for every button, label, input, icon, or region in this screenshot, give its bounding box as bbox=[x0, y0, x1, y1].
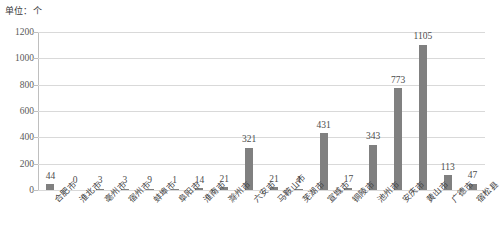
y-axis-tick-labels: 020040060080010001200 bbox=[0, 0, 38, 246]
bar-value-label: 431 bbox=[316, 121, 330, 131]
bar-group[interactable]: 47 bbox=[460, 32, 485, 190]
bar-group[interactable]: 21 bbox=[262, 32, 287, 190]
bar-group[interactable]: 1 bbox=[162, 32, 187, 190]
bar-group[interactable]: 113 bbox=[435, 32, 460, 190]
bar-value-label: 773 bbox=[391, 76, 405, 86]
bar-value-label: 44 bbox=[46, 172, 56, 182]
bar-value-label: 343 bbox=[366, 132, 380, 142]
bar-group[interactable]: 321 bbox=[237, 32, 262, 190]
bar-value-label: 1105 bbox=[414, 32, 433, 42]
bar-group[interactable]: 0 bbox=[63, 32, 88, 190]
bar-group[interactable]: 4 bbox=[286, 32, 311, 190]
bar[interactable] bbox=[419, 45, 427, 190]
bar-value-label: 113 bbox=[441, 163, 455, 173]
bar-group[interactable]: 17 bbox=[336, 32, 361, 190]
bar-group[interactable]: 14 bbox=[187, 32, 212, 190]
bar-group[interactable]: 44 bbox=[38, 32, 63, 190]
bar-group[interactable]: 21 bbox=[212, 32, 237, 190]
bar-group[interactable]: 3 bbox=[88, 32, 113, 190]
bar[interactable] bbox=[46, 184, 54, 190]
bar-group[interactable]: 343 bbox=[361, 32, 386, 190]
plot-area: 4403391142132121443117343773110511347 bbox=[38, 32, 485, 190]
bar-group[interactable]: 773 bbox=[386, 32, 411, 190]
bar-group[interactable]: 431 bbox=[311, 32, 336, 190]
bar-value-label: 321 bbox=[242, 135, 256, 145]
bar[interactable] bbox=[394, 88, 402, 190]
bar-group[interactable]: 9 bbox=[137, 32, 162, 190]
bar-group[interactable]: 1105 bbox=[411, 32, 436, 190]
bar-group[interactable]: 3 bbox=[113, 32, 138, 190]
